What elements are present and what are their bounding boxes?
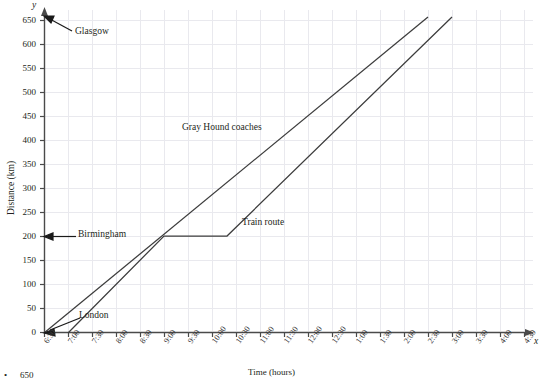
footnote-bullet: • <box>4 370 7 380</box>
y-axis-arrowhead <box>41 7 48 16</box>
glasgow-arrowhead <box>44 16 54 23</box>
footnote-text: 650 <box>20 370 34 380</box>
series-label-gray-hound-coaches: Gray Hound coaches <box>182 122 262 132</box>
y-tick-label: 350 <box>0 159 36 169</box>
annotation-label-london: London <box>79 310 109 320</box>
axis-lines <box>41 7 534 336</box>
y-tick-label: 550 <box>0 63 36 73</box>
series-label-train-route: Train route <box>242 217 284 227</box>
y-tick-label: 600 <box>0 39 36 49</box>
y-axis-symbol: y <box>32 0 36 10</box>
birmingham-arrowhead <box>44 233 53 240</box>
grid-vertical <box>45 10 525 331</box>
chart-figure: y x Distance (km) Time (hours) 050100150… <box>0 0 545 381</box>
y-tick-marks <box>40 21 44 333</box>
y-tick-label: 200 <box>0 231 36 241</box>
annotation-label-glasgow: Glasgow <box>75 26 109 36</box>
y-tick-label: 450 <box>0 111 36 121</box>
y-tick-label: 50 <box>0 303 36 313</box>
y-tick-label: 400 <box>0 135 36 145</box>
y-tick-label: 0 <box>0 327 36 337</box>
y-tick-label: 300 <box>0 183 36 193</box>
annotation-label-birmingham: Birmingham <box>78 229 126 239</box>
y-tick-label: 150 <box>0 255 36 265</box>
y-tick-label: 500 <box>0 87 36 97</box>
annotation-arrows <box>44 16 80 336</box>
y-tick-label: 250 <box>0 207 36 217</box>
y-tick-label: 100 <box>0 279 36 289</box>
y-tick-label: 650 <box>0 15 36 25</box>
chart-canvas <box>0 0 545 381</box>
x-axis-title: Time (hours) <box>248 367 295 377</box>
